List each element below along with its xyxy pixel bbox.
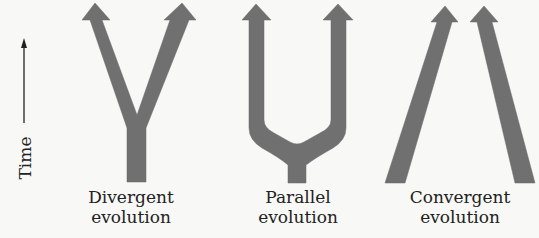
parallel-evolution-arrow-icon bbox=[242, 4, 353, 183]
convergent-label-line1: Convergent bbox=[402, 187, 518, 207]
time-axis-label: Time bbox=[15, 136, 35, 180]
convergent-evolution-label: Convergent evolution bbox=[402, 187, 518, 227]
parallel-evolution-label: Parallel evolution bbox=[245, 187, 351, 227]
convergent-label-line2: evolution bbox=[402, 207, 518, 227]
parallel-label-line1: Parallel bbox=[245, 187, 351, 207]
divergent-label-line1: Divergent bbox=[78, 187, 184, 207]
time-arrow-icon bbox=[21, 38, 27, 123]
convergent-left-arrow-icon bbox=[385, 6, 458, 183]
divergent-evolution-arrow-icon bbox=[82, 3, 196, 182]
parallel-label-line2: evolution bbox=[245, 207, 351, 227]
evolution-patterns-diagram: Time Divergent evolution Parallel evolut… bbox=[0, 0, 539, 238]
convergent-right-arrow-icon bbox=[470, 6, 535, 183]
divergent-label-line2: evolution bbox=[78, 207, 184, 227]
divergent-evolution-label: Divergent evolution bbox=[78, 187, 184, 227]
